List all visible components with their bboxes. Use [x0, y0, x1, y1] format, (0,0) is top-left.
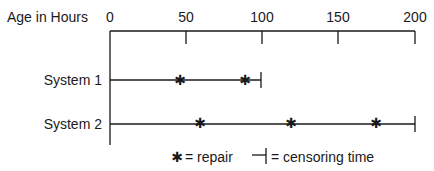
repair-star-icon: ✱ — [174, 72, 186, 88]
system-1-row: System 1 ✱ ✱ — [44, 72, 261, 88]
tick-label-100: 100 — [250, 9, 274, 25]
x-tick-labels: 0 50 100 150 200 — [106, 9, 427, 25]
legend-repair-label: = repair — [185, 149, 233, 165]
repair-star-icon: ✱ — [285, 115, 297, 131]
system-2-row: System 2 ✱ ✱ ✱ — [44, 115, 415, 132]
repair-star-icon: ✱ — [239, 72, 251, 88]
legend-censor-bar-icon — [252, 148, 266, 164]
legend: ✱ = repair = censoring time — [171, 148, 374, 165]
axis-title: Age in Hours — [7, 9, 88, 25]
tick-label-0: 0 — [106, 9, 114, 25]
legend-censor-label: = censoring time — [271, 149, 374, 165]
row-label-system-1: System 1 — [44, 72, 103, 88]
x-axis — [110, 31, 415, 44]
repair-star-icon: ✱ — [370, 115, 382, 131]
repair-timeline-chart: Age in Hours 0 50 100 150 200 System 1 ✱… — [0, 0, 434, 171]
tick-label-50: 50 — [178, 9, 194, 25]
row-label-system-2: System 2 — [44, 116, 103, 132]
tick-label-200: 200 — [403, 9, 427, 25]
legend-repair-star-icon: ✱ — [171, 149, 183, 165]
repair-star-icon: ✱ — [194, 115, 206, 131]
tick-label-150: 150 — [326, 9, 350, 25]
